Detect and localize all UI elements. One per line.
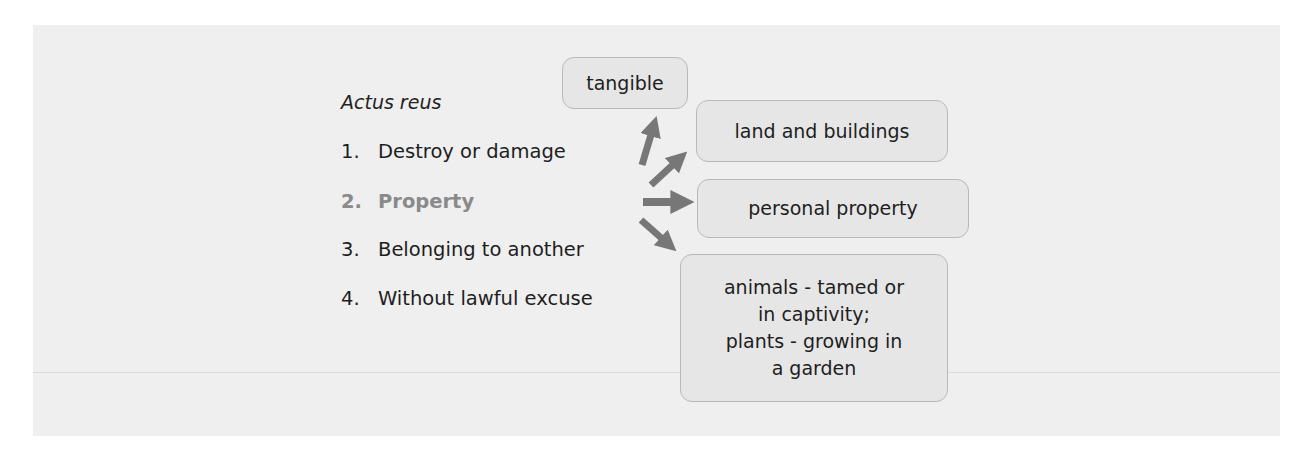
- arrows-layer: [0, 0, 1302, 456]
- arrow-to-animals-icon: [641, 220, 667, 243]
- arrow-to-tangible-icon: [642, 128, 653, 165]
- arrow-to-land-icon: [651, 160, 678, 185]
